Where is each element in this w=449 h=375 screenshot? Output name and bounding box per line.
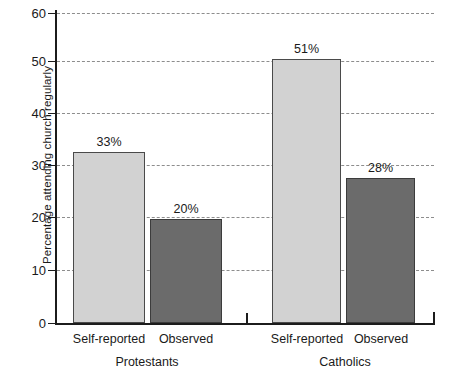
y-tick-label-60: 60 [0,7,46,20]
y-tick-30 [48,165,55,166]
x-axis-line [55,323,435,325]
bar-protestants-self-reported[interactable] [73,152,145,323]
category-label-catholics-observed: Observed [326,333,436,346]
y-tick-20 [48,217,55,218]
y-tick-label-40: 40 [0,107,46,120]
y-tick-label-0: 0 [0,317,46,330]
y-axis-line [55,10,57,325]
bar-protestants-observed[interactable] [150,219,222,323]
group-separator-tick [246,313,248,324]
bar-value-protestants-self-reported: 33% [73,136,145,149]
bar-chart: Percentage attending church regularly 60… [0,0,449,375]
y-tick-10 [48,270,55,271]
x-axis-end-tick [433,312,435,325]
bar-value-protestants-observed: 20% [150,203,222,216]
bar-value-catholics-self-reported: 51% [272,43,341,56]
y-tick-label-50: 50 [0,55,46,68]
gridline-40 [57,113,434,114]
bar-value-catholics-observed: 28% [346,162,415,175]
group-label-catholics: Catholics [285,356,405,369]
bar-catholics-self-reported[interactable] [272,59,341,323]
bar-catholics-observed[interactable] [346,178,415,323]
y-tick-label-30: 30 [0,159,46,172]
gridline-60 [57,13,434,14]
group-label-protestants: Protestants [87,356,207,369]
y-tick-40 [48,113,55,114]
y-tick-60 [48,13,55,14]
y-tick-label-10: 10 [0,264,46,277]
category-label-protestants-observed: Observed [131,333,241,346]
y-tick-label-20: 20 [0,211,46,224]
y-tick-0 [48,323,55,324]
y-tick-50 [48,61,55,62]
gridline-50 [57,61,434,62]
